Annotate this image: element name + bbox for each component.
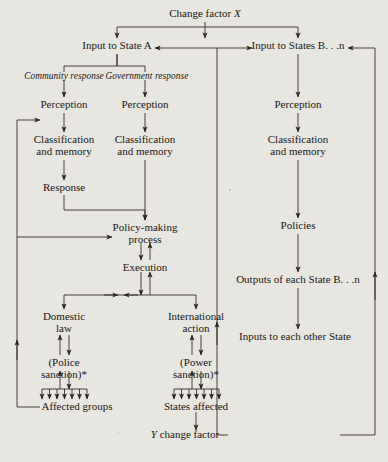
label-government-response: Government response <box>106 71 189 83</box>
node-policy-making-process: Policy-making process <box>113 222 178 245</box>
node-y-change-factor: Y change factor <box>151 429 219 441</box>
node-perception-states: Perception <box>274 99 321 111</box>
node-police-sanction: (Police sanction)* <box>41 357 87 380</box>
flowchart-diagram: Change factor X Input to State A Input t… <box>0 0 388 462</box>
label-community-response: Community response <box>24 71 104 83</box>
node-power-sanction: (Power sanction)* <box>173 357 219 380</box>
node-outputs-of-each-state: Outputs of each State B. . .n <box>236 274 360 286</box>
node-inputs-to-each-other-state: Inputs to each other State <box>239 331 351 343</box>
node-perception-community: Perception <box>40 99 87 111</box>
node-domestic-law: Domestic law <box>43 311 85 334</box>
node-affected-groups: Affected groups <box>42 401 113 413</box>
policy-making-line2: process <box>113 234 178 246</box>
node-policies: Policies <box>281 220 316 232</box>
policy-making-line1: Policy-making <box>113 222 178 234</box>
classification-line1: Classification <box>34 134 95 146</box>
classification-line1: Classification <box>268 134 329 146</box>
node-input-to-state-a: Input to State A <box>82 40 151 52</box>
international-action-line2: action <box>168 323 224 335</box>
node-classification-memory-community: Classification and memory <box>34 134 95 157</box>
node-international-action: International action <box>168 311 224 334</box>
power-sanction-line1: (Power <box>173 357 219 369</box>
classification-line2: and memory <box>115 146 176 158</box>
police-sanction-line2: sanction)* <box>41 369 87 381</box>
classification-line2: and memory <box>268 146 329 158</box>
node-change-factor-x: Change factor X <box>169 8 240 20</box>
international-action-line1: International <box>168 311 224 323</box>
connector-lines <box>0 0 388 462</box>
domestic-law-line2: law <box>43 323 85 335</box>
node-execution: Execution <box>123 262 168 274</box>
domestic-law-line1: Domestic <box>43 311 85 323</box>
node-response: Response <box>43 182 85 194</box>
node-classification-memory-government: Classification and memory <box>115 134 176 157</box>
classification-line2: and memory <box>34 146 95 158</box>
classification-line1: Classification <box>115 134 176 146</box>
node-classification-memory-states: Classification and memory <box>268 134 329 157</box>
node-states-affected: States affected <box>164 401 228 413</box>
police-sanction-line1: (Police <box>41 357 87 369</box>
power-sanction-line2: sanction)* <box>173 369 219 381</box>
node-input-to-states-bn: Input to States B. . .n <box>252 40 345 52</box>
node-perception-government: Perception <box>121 99 168 111</box>
